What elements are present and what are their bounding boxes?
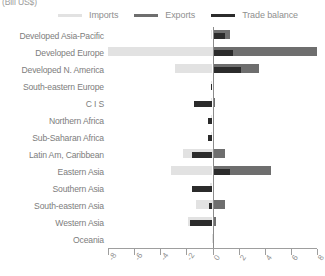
category-label: Northern Africa [0, 116, 104, 126]
x-axis-tick-label: 2 [238, 253, 248, 262]
legend-swatch-trade-balance [211, 14, 235, 17]
bar-trade-balance [192, 186, 213, 192]
x-axis-tick-label: 8 [316, 253, 325, 262]
legend-item-imports[interactable]: Imports [58, 10, 118, 20]
bar-trade-balance [192, 152, 212, 158]
category-label: Developed N. America [0, 65, 104, 75]
category-label: South-eastern Asia [0, 201, 104, 211]
bar-trade-balance [213, 67, 242, 73]
category-label: C I S [0, 99, 104, 109]
category-label: Latin Am, Caribbean [0, 150, 104, 160]
x-axis-tick-label: -4 [159, 251, 170, 262]
x-axis-tick-label: -8 [107, 251, 118, 262]
x-axis-tick-label: 0 [212, 253, 222, 262]
x-axis-tick-label: -6 [133, 251, 144, 262]
trade-bar-chart: (Bill US$) ImportsExportsTrade balance D… [0, 0, 325, 276]
plot-area: -8-6-4-202468 [108, 27, 317, 248]
legend-label: Exports [165, 10, 195, 20]
bar-trade-balance [194, 101, 213, 107]
bar-trade-balance [190, 220, 212, 226]
legend-item-trade-balance[interactable]: Trade balance [211, 10, 298, 20]
category-label: Eastern Asia [0, 167, 104, 177]
x-axis-tick-label: 6 [290, 253, 300, 262]
category-axis-labels: Developed Asia-PacificDeveloped EuropeDe… [0, 27, 104, 248]
category-label: Developed Europe [0, 48, 104, 58]
bar-imports [108, 47, 213, 56]
bar-exports [213, 149, 225, 158]
category-label: Western Asia [0, 218, 104, 228]
legend-item-exports[interactable]: Exports [134, 10, 195, 20]
category-label: Southern Asia [0, 184, 104, 194]
bar-imports [171, 166, 213, 175]
bar-trade-balance [213, 50, 234, 56]
legend-label: Trade balance [242, 10, 298, 20]
bar-trade-balance [213, 169, 231, 175]
bar-exports [213, 200, 225, 209]
zero-line [213, 27, 214, 254]
legend-swatch-exports [134, 14, 158, 17]
chart-legend: ImportsExportsTrade balance [58, 8, 322, 22]
bar-imports [175, 64, 212, 73]
legend-label: Imports [89, 10, 118, 20]
category-label: Sub-Saharan Africa [0, 133, 104, 143]
category-label: Developed Asia-Pacific [0, 31, 104, 41]
category-label: Oceania [0, 235, 104, 245]
legend-swatch-imports [58, 14, 82, 17]
unit-label: (Bill US$) [2, 0, 37, 7]
bar-trade-balance [213, 33, 225, 39]
x-axis-tick-label: 4 [264, 253, 274, 262]
category-label: South-eastern Europe [0, 82, 104, 92]
x-axis-tick-label: -2 [185, 251, 196, 262]
